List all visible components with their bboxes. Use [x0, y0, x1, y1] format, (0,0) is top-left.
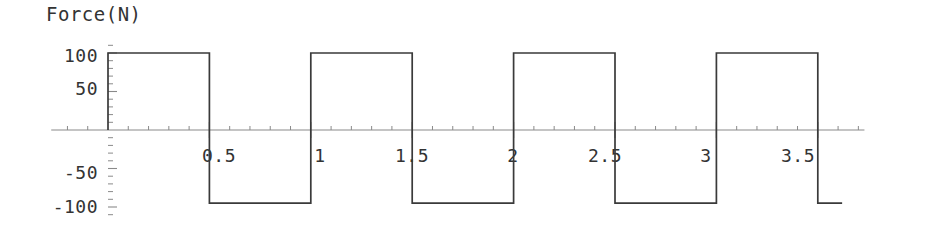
plot-canvas: [0, 0, 946, 235]
x-axis-minor-ticks: [67, 126, 858, 130]
force-waveform-trace: [108, 53, 842, 203]
force-square-wave-plot: Force(N) 100 50 -50 -100 0.5 1 1.5 2 2.5…: [0, 0, 946, 235]
